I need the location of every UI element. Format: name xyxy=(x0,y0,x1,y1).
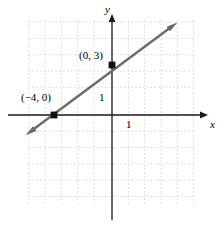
x-axis-label: x xyxy=(210,119,215,130)
plot-canvas xyxy=(0,0,221,225)
point-marker-0-3 xyxy=(109,62,116,69)
x-axis-tick-1: 1 xyxy=(126,119,132,130)
y-axis-label: y xyxy=(105,4,110,15)
plotted-line xyxy=(26,22,178,135)
point-label-neg4-0: (−4, 0) xyxy=(21,92,51,103)
x-axis-arrowhead xyxy=(200,112,208,119)
y-axis-arrowhead xyxy=(109,14,116,22)
coordinate-plane-figure: y x 1 1 (0, 3) (−4, 0) xyxy=(0,0,221,225)
y-axis-tick-1: 1 xyxy=(99,92,105,103)
x-axis xyxy=(8,112,208,119)
point-label-0-3: (0, 3) xyxy=(79,50,103,61)
y-axis xyxy=(109,14,116,220)
point-marker-neg4-0 xyxy=(51,112,58,119)
